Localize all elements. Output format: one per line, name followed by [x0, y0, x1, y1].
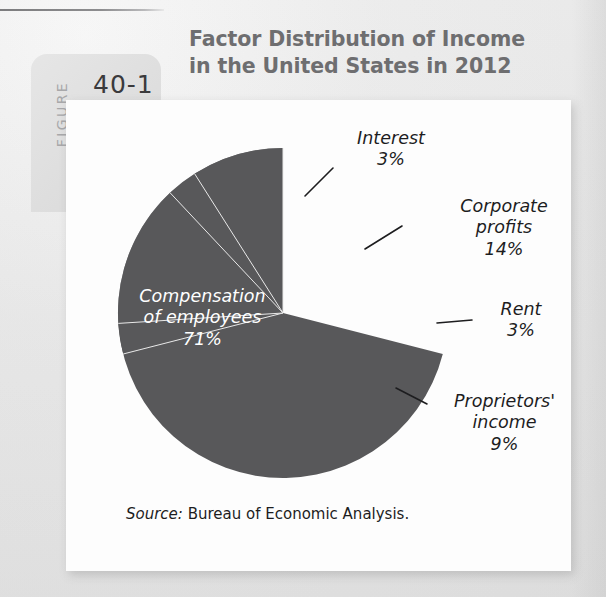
- page-title: Factor Distribution of Income in the Uni…: [189, 26, 519, 80]
- slice-label-corporate-profits-value: 14%: [438, 239, 570, 260]
- slice-label-interest: Interest 3%: [336, 128, 446, 171]
- figure-number: 40-1: [93, 70, 154, 99]
- slice-label-compensation-line2: of employees: [115, 307, 290, 328]
- source-note: Source: Bureau of Economic Analysis.: [126, 505, 409, 523]
- source-text: Bureau of Economic Analysis.: [183, 505, 409, 523]
- top-rule-divider: [0, 9, 164, 11]
- slice-label-rent-value: 3%: [476, 320, 566, 341]
- slice-label-compensation-line1: Compensation: [115, 286, 290, 307]
- slice-label-corporate-profits: Corporate profits 14%: [438, 196, 570, 260]
- title-line-2: in the United States in 2012: [189, 53, 519, 80]
- scan-edge-shading: [572, 0, 606, 597]
- slice-label-proprietors-income-line2: income: [432, 412, 577, 433]
- slice-label-corporate-profits-line1: Corporate: [438, 196, 570, 217]
- slice-label-compensation-value: 71%: [115, 329, 290, 350]
- title-line-1: Factor Distribution of Income: [189, 26, 519, 53]
- slice-label-compensation: Compensation of employees 71%: [115, 286, 290, 350]
- slice-label-rent: Rent 3%: [476, 299, 566, 342]
- slice-label-interest-line1: Interest: [336, 128, 446, 149]
- slice-label-proprietors-income-line1: Proprietors': [432, 391, 577, 412]
- slice-label-proprietors-income-value: 9%: [432, 434, 577, 455]
- source-prefix: Source:: [126, 505, 183, 523]
- slice-label-interest-value: 3%: [336, 149, 446, 170]
- slice-label-corporate-profits-line2: profits: [438, 217, 570, 238]
- slice-label-proprietors-income: Proprietors' income 9%: [432, 391, 577, 455]
- slice-label-rent-line1: Rent: [476, 299, 566, 320]
